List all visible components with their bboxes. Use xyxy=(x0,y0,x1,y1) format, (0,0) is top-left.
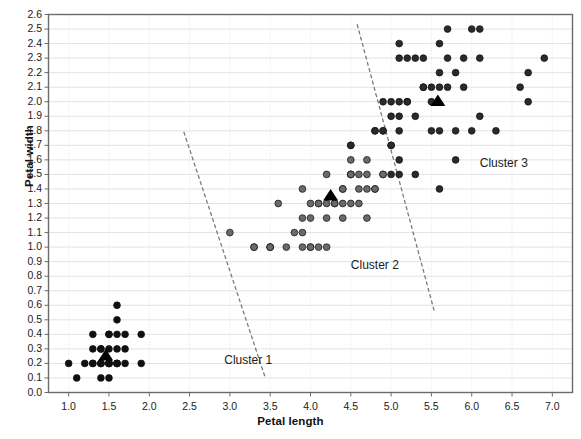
data-point xyxy=(412,113,419,120)
data-point xyxy=(468,127,475,134)
data-point xyxy=(355,186,362,193)
data-point xyxy=(380,171,387,178)
y-tick-label: 0.1 xyxy=(8,371,42,383)
x-tick-label: 6.5 xyxy=(492,400,532,412)
plot-canvas xyxy=(0,0,581,439)
data-point xyxy=(396,156,403,163)
data-point xyxy=(299,186,306,193)
data-point xyxy=(98,360,105,367)
data-point xyxy=(122,331,129,338)
divider-cluster1-cluster2 xyxy=(184,132,265,378)
data-point xyxy=(299,229,306,236)
x-tick-label: 4.5 xyxy=(331,400,371,412)
y-tick-label: 1.2 xyxy=(8,211,42,223)
data-point xyxy=(307,244,314,251)
data-point xyxy=(81,360,88,367)
data-point xyxy=(323,171,330,178)
data-point xyxy=(404,55,411,62)
data-point xyxy=(114,345,121,352)
data-point xyxy=(98,375,105,382)
cluster-1-label: Cluster 1 xyxy=(224,353,272,367)
data-point xyxy=(452,127,459,134)
y-tick-label: 1.0 xyxy=(8,240,42,252)
data-point xyxy=(404,98,411,105)
data-point xyxy=(106,375,113,382)
data-point xyxy=(476,26,483,33)
y-tick-label: 0.0 xyxy=(8,386,42,398)
data-point xyxy=(380,127,387,134)
data-point xyxy=(388,113,395,120)
x-tick-label: 5.5 xyxy=(411,400,451,412)
data-point xyxy=(339,200,346,207)
data-point xyxy=(412,55,419,62)
data-point xyxy=(380,98,387,105)
data-point xyxy=(65,360,72,367)
data-point xyxy=(396,113,403,120)
data-point xyxy=(396,40,403,47)
data-point xyxy=(138,331,145,338)
data-point xyxy=(347,171,354,178)
data-point xyxy=(436,69,443,76)
data-point xyxy=(388,142,395,149)
x-tick-label: 2.5 xyxy=(170,400,210,412)
y-tick-label: 0.7 xyxy=(8,284,42,296)
y-tick-label: 0.5 xyxy=(8,313,42,325)
data-point xyxy=(388,98,395,105)
y-tick-label: 0.3 xyxy=(8,342,42,354)
centroid-marker-cluster-2 xyxy=(323,189,338,201)
data-point xyxy=(476,55,483,62)
y-tick-label: 1.5 xyxy=(8,167,42,179)
x-tick-label: 2.0 xyxy=(129,400,169,412)
y-tick-label: 0.8 xyxy=(8,269,42,281)
y-tick-label: 0.6 xyxy=(8,298,42,310)
y-tick-label: 1.8 xyxy=(8,124,42,136)
data-point xyxy=(89,331,96,338)
data-point xyxy=(122,360,129,367)
data-point xyxy=(460,55,467,62)
x-tick-label: 3.5 xyxy=(250,400,290,412)
data-point xyxy=(122,345,129,352)
y-tick-label: 0.4 xyxy=(8,327,42,339)
data-point xyxy=(307,215,314,222)
data-point xyxy=(396,171,403,178)
scatter-plot-figure: Petal width Petal length 0.00.10.20.30.4… xyxy=(0,0,581,439)
x-tick-label: 5.0 xyxy=(371,400,411,412)
data-point xyxy=(347,156,354,163)
cluster-centroids xyxy=(98,95,445,361)
y-tick-label: 2.0 xyxy=(8,95,42,107)
data-point xyxy=(299,244,306,251)
data-point xyxy=(89,360,96,367)
y-tick-label: 1.1 xyxy=(8,226,42,238)
data-point xyxy=(452,69,459,76)
data-point xyxy=(396,55,403,62)
data-point xyxy=(283,244,290,251)
data-point xyxy=(428,127,435,134)
x-tick-label: 6.0 xyxy=(452,400,492,412)
y-tick-label: 2.3 xyxy=(8,51,42,63)
data-point xyxy=(372,127,379,134)
data-point xyxy=(355,200,362,207)
data-point xyxy=(114,302,121,309)
data-point xyxy=(364,186,371,193)
data-point xyxy=(452,156,459,163)
data-point xyxy=(114,316,121,323)
x-tick-label: 3.0 xyxy=(210,400,250,412)
data-point xyxy=(396,98,403,105)
data-point xyxy=(493,127,500,134)
data-point xyxy=(323,200,330,207)
data-point xyxy=(364,215,371,222)
data-point xyxy=(436,127,443,134)
tick-marks xyxy=(45,15,553,397)
data-point xyxy=(114,331,121,338)
y-tick-label: 2.6 xyxy=(8,8,42,20)
data-point xyxy=(138,360,145,367)
data-point xyxy=(73,375,80,382)
data-point xyxy=(315,244,322,251)
data-point xyxy=(106,360,113,367)
data-point xyxy=(323,215,330,222)
y-tick-label: 0.2 xyxy=(8,356,42,368)
y-tick-label: 2.2 xyxy=(8,66,42,78)
data-point xyxy=(436,186,443,193)
cluster-3-label: Cluster 3 xyxy=(480,156,528,170)
y-tick-label: 0.9 xyxy=(8,255,42,267)
